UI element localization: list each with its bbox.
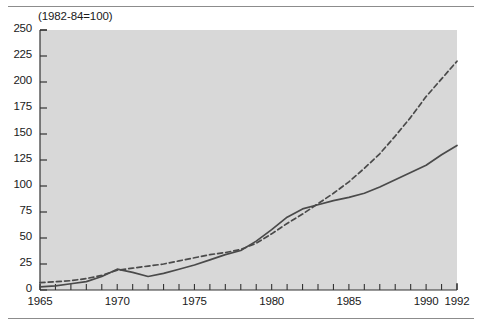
y-tick-label-100: 100 (0, 178, 32, 190)
x-tick-label-1965: 1965 (18, 295, 62, 307)
y-tick-label-75: 75 (0, 204, 32, 216)
x-tick-label-1980: 1980 (250, 295, 294, 307)
y-tick-label-125: 125 (0, 152, 32, 164)
x-tick-label-1975: 1975 (172, 295, 216, 307)
line-chart-plot (0, 0, 482, 327)
y-tick-label-175: 175 (0, 100, 32, 112)
y-tick-label-200: 200 (0, 74, 32, 86)
y-tick-label-0: 0 (0, 282, 32, 294)
x-tick-label-1992: 1992 (435, 295, 479, 307)
y-tick-label-225: 225 (0, 48, 32, 60)
y-tick-label-50: 50 (0, 230, 32, 242)
y-tick-label-25: 25 (0, 256, 32, 268)
chart-figure: (1982-84=100) 02550751001251501752002252… (0, 0, 482, 327)
y-tick-label-250: 250 (0, 22, 32, 34)
plot-background (40, 30, 457, 290)
x-tick-label-1985: 1985 (327, 295, 371, 307)
y-tick-label-150: 150 (0, 126, 32, 138)
x-tick-label-1970: 1970 (95, 295, 139, 307)
